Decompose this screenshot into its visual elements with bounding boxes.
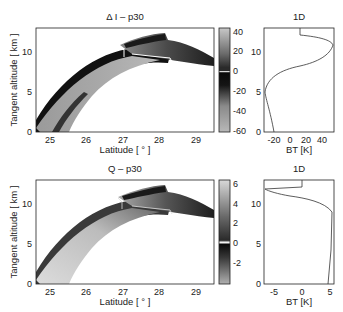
svg-text:-60: -60 xyxy=(233,126,246,136)
svg-text:2: 2 xyxy=(233,218,238,228)
x-label: Latitude [ ° ] xyxy=(100,296,151,307)
colorbar-ticks: 40 20 0 -20 -40 -60 xyxy=(233,27,246,136)
svg-text:10: 10 xyxy=(251,47,261,57)
y-ticks: 0 5 10 xyxy=(251,47,261,137)
svg-text:5: 5 xyxy=(27,87,32,97)
svg-text:25: 25 xyxy=(45,287,55,297)
svg-text:5: 5 xyxy=(327,287,332,297)
profile-1d-bottom: 1D 0 5 10 -5 0 5 BT [K] xyxy=(251,163,334,307)
svg-text:-5: -5 xyxy=(270,287,278,297)
heatmap-body xyxy=(36,185,214,284)
svg-text:0: 0 xyxy=(233,238,238,248)
svg-text:-2: -2 xyxy=(233,258,241,268)
svg-text:10: 10 xyxy=(251,199,261,209)
colorbar-ticks: 6 4 2 0 -2 xyxy=(233,179,241,268)
heatmap-q: Q – p30 0 5 10 25 26 27 28 29 Latitude [… xyxy=(8,163,241,307)
y-label: Tangent altitude [ km ] xyxy=(8,34,19,127)
figure: Δ I – p30 0 5 10 25 26 27 28 29 xyxy=(0,0,343,312)
title-delta-i: Δ I – p30 xyxy=(106,11,144,22)
y-ticks: 0 5 10 xyxy=(251,199,261,289)
svg-text:29: 29 xyxy=(191,287,201,297)
svg-text:4: 4 xyxy=(233,199,238,209)
heatmap-body xyxy=(36,33,214,132)
title-1d-top: 1D xyxy=(293,11,305,22)
axes-frame xyxy=(264,28,334,132)
colorbar xyxy=(219,28,230,132)
y-label: Tangent altitude [ km ] xyxy=(8,186,19,279)
svg-text:0: 0 xyxy=(27,127,32,137)
svg-text:29: 29 xyxy=(191,135,201,145)
svg-text:10: 10 xyxy=(22,47,32,57)
svg-text:0: 0 xyxy=(233,66,238,76)
svg-text:10: 10 xyxy=(22,199,32,209)
title-1d-bottom: 1D xyxy=(293,163,305,174)
axes-frame xyxy=(264,180,334,284)
profile-1d-top: 1D 0 5 10 -20 0 20 40 BT [K] xyxy=(251,11,334,155)
svg-text:-20: -20 xyxy=(267,135,280,145)
x-label: BT [K] xyxy=(286,296,312,307)
svg-text:20: 20 xyxy=(233,46,243,56)
svg-text:6: 6 xyxy=(233,179,238,189)
y-ticks: 0 5 10 xyxy=(22,199,32,289)
svg-text:40: 40 xyxy=(233,27,243,37)
svg-text:5: 5 xyxy=(256,239,261,249)
svg-text:28: 28 xyxy=(154,287,164,297)
heatmap-delta-i: Δ I – p30 0 5 10 25 26 27 28 29 xyxy=(8,11,246,155)
svg-text:0: 0 xyxy=(256,279,261,289)
svg-text:40: 40 xyxy=(317,135,327,145)
x-label: BT [K] xyxy=(286,144,312,155)
svg-text:-40: -40 xyxy=(233,106,246,116)
svg-text:5: 5 xyxy=(27,239,32,249)
svg-text:0: 0 xyxy=(27,279,32,289)
svg-text:5: 5 xyxy=(256,87,261,97)
title-q: Q – p30 xyxy=(108,163,142,174)
svg-text:26: 26 xyxy=(81,287,91,297)
colorbar xyxy=(219,180,230,284)
svg-text:26: 26 xyxy=(81,135,91,145)
y-ticks: 0 5 10 xyxy=(22,47,32,137)
svg-text:28: 28 xyxy=(154,135,164,145)
svg-text:-20: -20 xyxy=(233,86,246,96)
svg-text:0: 0 xyxy=(256,127,261,137)
svg-text:25: 25 xyxy=(45,135,55,145)
x-label: Latitude [ ° ] xyxy=(100,144,151,155)
